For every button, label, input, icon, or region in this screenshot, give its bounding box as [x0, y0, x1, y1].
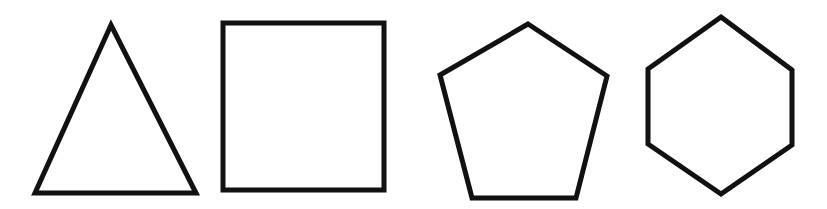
shapes-diagram	[0, 0, 827, 209]
